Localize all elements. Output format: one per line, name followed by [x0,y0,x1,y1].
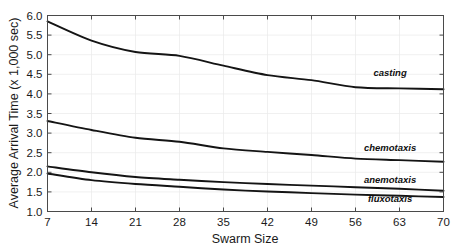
x-tick-label: 42 [261,216,274,228]
x-tick-label: 21 [129,216,142,228]
x-tick-label: 49 [305,216,318,228]
y-tick-label: 3.5 [27,108,43,120]
line-chart: 1.01.52.02.53.03.54.04.55.05.56.0 714212… [0,0,468,248]
y-tick-label: 1.0 [27,206,43,218]
series-label-anemotaxis: anemotaxis [364,174,416,185]
y-tick-label: 6.0 [27,10,43,22]
y-axis-title: Average Arrival Time (x 1,000 sec) [7,18,21,209]
y-tick-label: 5.5 [27,29,43,41]
chart-background [0,0,468,248]
x-tick-label: 56 [349,216,362,228]
series-label-fluxotaxis: fluxotaxis [368,193,412,204]
y-tick-label: 3.0 [27,127,43,139]
y-tick-label: 1.5 [27,186,43,198]
series-label-chemotaxis: chemotaxis [364,142,416,153]
y-tick-label: 2.5 [27,147,43,159]
x-tick-label: 28 [173,216,186,228]
series-label-casting: casting [373,67,406,78]
y-tick-label: 2.0 [27,166,43,178]
x-tick-label: 70 [437,216,450,228]
x-tick-label: 63 [393,216,406,228]
x-tick-label: 7 [44,216,50,228]
x-tick-label: 14 [85,216,98,228]
y-tick-label: 4.0 [27,88,43,100]
y-tick-label: 5.0 [27,49,43,61]
x-tick-label: 35 [217,216,230,228]
y-tick-label: 4.5 [27,68,43,80]
x-axis-title: Swarm Size [212,232,279,246]
chart-container: 1.01.52.02.53.03.54.04.55.05.56.0 714212… [0,0,468,248]
